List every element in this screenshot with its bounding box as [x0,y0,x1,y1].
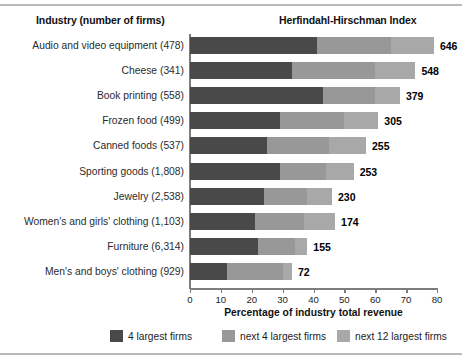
bar-segment-1 [190,263,227,280]
bar-segment-2 [292,62,375,79]
bar-segment-2 [280,112,345,129]
bar-segment-1 [190,238,258,255]
bar-segment-1 [190,163,280,180]
bar-segment-2 [258,238,295,255]
bar-row [190,213,335,230]
x-tick [344,288,345,293]
hhi-value: 253 [360,166,378,178]
category-label: Canned foods (537) [0,140,184,151]
x-tick-label: 10 [216,294,227,305]
bar-segment-3 [304,213,335,230]
x-tick [252,288,253,293]
x-tick [314,288,315,293]
hhi-value: 255 [372,140,390,152]
x-axis-title: Percentage of industry total revenue [190,307,437,318]
x-tick [283,288,284,293]
bar-segment-1 [190,87,323,104]
column-header-hhi: Herfindahl-Hirschman Index [279,14,416,26]
bar-segment-2 [264,188,307,205]
bar-segment-3 [375,87,400,104]
bar-row [190,188,332,205]
x-tick-label: 50 [339,294,350,305]
category-label: Sporting goods (1,808) [0,166,184,177]
hhi-value: 72 [298,266,310,278]
bar-row [190,37,434,54]
x-tick-label: 20 [246,294,257,305]
bar-segment-3 [283,263,292,280]
bar-segment-1 [190,137,267,154]
hhi-value: 646 [440,40,458,52]
category-label: Book printing (558) [0,90,184,101]
bottom-divider [0,353,462,355]
category-label: Frozen food (499) [0,115,184,126]
chart-container: Industry (number of firms) Herfindahl-Hi… [0,0,462,359]
x-tick-label: 70 [401,294,412,305]
bar-row [190,62,415,79]
bar-segment-1 [190,112,280,129]
top-divider [0,4,462,6]
bar-row [190,137,366,154]
bar-segment-1 [190,213,255,230]
x-tick [437,288,438,293]
x-tick [221,288,222,293]
x-tick-label: 0 [187,294,192,305]
category-label: Jewelry (2,538) [0,191,184,202]
bar-segment-1 [190,188,264,205]
x-tick [190,288,191,293]
category-label: Furniture (6,314) [0,241,184,252]
hhi-value: 230 [338,191,356,203]
x-tick-label: 30 [277,294,288,305]
category-label: Women's and girls' clothing (1,103) [0,216,184,227]
bar-segment-3 [295,238,307,255]
bar-segment-2 [317,37,391,54]
legend-item-c4[interactable]: 4 largest firms [110,330,192,342]
bar-segment-1 [190,62,292,79]
legend-swatch-icon [110,330,123,342]
legend-swatch-icon [337,330,350,342]
category-label: Men's and boys' clothing (929) [0,266,184,277]
bar-segment-1 [190,37,317,54]
x-tick-label: 60 [370,294,381,305]
hhi-value: 305 [384,115,402,127]
x-tick [375,288,376,293]
bar-row [190,112,378,129]
hhi-value: 174 [341,216,359,228]
legend-label: 4 largest firms [128,331,192,342]
bar-segment-2 [227,263,283,280]
bar-row [190,87,400,104]
bar-segment-3 [375,62,415,79]
legend-item-c8[interactable]: next 4 largest firms [222,330,326,342]
x-tick-label: 40 [308,294,319,305]
legend-swatch-icon [222,330,235,342]
bar-row [190,163,354,180]
legend-label: next 4 largest firms [240,331,326,342]
bar-segment-2 [255,213,304,230]
bar-segment-2 [267,137,329,154]
bar-segment-2 [280,163,326,180]
legend-item-c20[interactable]: next 12 largest firms [337,330,447,342]
hhi-value: 548 [421,65,439,77]
bar-row [190,238,307,255]
bar-segment-3 [326,163,354,180]
legend: 4 largest firmsnext 4 largest firmsnext … [0,330,462,346]
x-tick [406,288,407,293]
bar-segment-3 [329,137,366,154]
bar-segment-3 [391,37,434,54]
bar-row [190,263,292,280]
bar-segment-3 [307,188,332,205]
legend-label: next 12 largest firms [355,331,447,342]
bar-segment-3 [344,112,378,129]
hhi-value: 155 [313,241,331,253]
category-label: Audio and video equipment (478) [0,40,184,51]
bar-segment-2 [323,87,375,104]
category-label: Cheese (341) [0,65,184,76]
hhi-value: 379 [406,90,424,102]
column-header-industry: Industry (number of firms) [36,14,165,26]
x-tick-label: 80 [432,294,443,305]
